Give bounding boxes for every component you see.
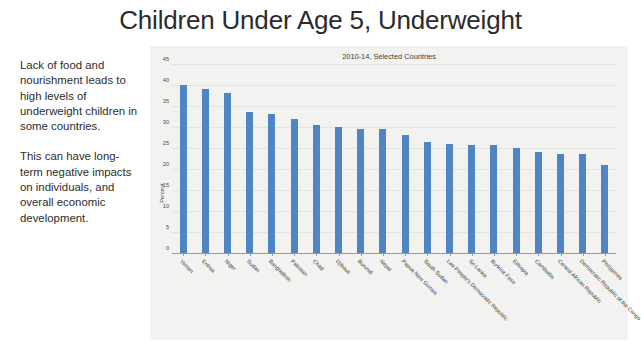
category-label-slot: Philippines: [594, 256, 616, 340]
y-axis-tick-label: 25: [163, 140, 169, 146]
bar-slot: [305, 64, 327, 253]
plot-area: 051015202530354045: [172, 64, 616, 254]
bar: [224, 93, 231, 253]
bar-slot: [527, 64, 549, 253]
bar: [424, 142, 431, 253]
narrative-text-block: Lack of food and nourishment leads to hi…: [20, 58, 142, 226]
y-axis-tick-label: 30: [163, 119, 169, 125]
bar-slot: [594, 64, 616, 253]
bar: [490, 145, 497, 253]
category-label: Nepal: [379, 258, 393, 272]
bar-slot: [194, 64, 216, 253]
y-axis-tick-label: 35: [163, 98, 169, 104]
bar-slot: [438, 64, 460, 253]
category-label-slot: Sri Lanka: [461, 256, 483, 340]
category-label-slot: Democratic Republic of the Congo: [572, 256, 594, 340]
bar: [468, 145, 475, 253]
bar: [446, 144, 453, 253]
category-label-slot: Cambodia: [527, 256, 549, 340]
category-label-slot: Burundi: [350, 256, 372, 340]
category-label-slot: South Sudan: [416, 256, 438, 340]
category-label-slot: Ethiopia: [505, 256, 527, 340]
category-label-slot: Djibouti: [327, 256, 349, 340]
bar: [313, 125, 320, 253]
y-axis-tick-label: 20: [163, 161, 169, 167]
bar-slot: [372, 64, 394, 253]
bar-slot: [261, 64, 283, 253]
y-axis-tick-label: 40: [163, 77, 169, 83]
bar-slot: [239, 64, 261, 253]
bar: [579, 154, 586, 253]
bar-slot: [483, 64, 505, 253]
narrative-paragraph-2: This can have long-term negative impacts…: [20, 149, 142, 225]
category-label-slot: Papua New Guinea: [394, 256, 416, 340]
category-label: Yemen: [179, 258, 195, 274]
bar-series: [172, 64, 616, 253]
category-label: Eritrea: [201, 258, 217, 274]
category-label-slot: Yemen: [172, 256, 194, 340]
x-axis-category-labels: YemenEritreaNigerSudanBangladeshPakistan…: [172, 256, 616, 340]
page-title: Children Under Age 5, Underweight: [0, 4, 641, 36]
bar: [180, 85, 187, 253]
category-label-slot: Central African Republic: [549, 256, 571, 340]
bar: [513, 148, 520, 253]
bar-slot: [572, 64, 594, 253]
category-label-slot: Nepal: [372, 256, 394, 340]
narrative-paragraph-1: Lack of food and nourishment leads to hi…: [20, 58, 142, 134]
category-label-slot: Burkina Faso: [483, 256, 505, 340]
bar-slot: [505, 64, 527, 253]
bar: [246, 112, 253, 253]
bar-slot: [416, 64, 438, 253]
bar-slot: [394, 64, 416, 253]
bar-slot: [549, 64, 571, 253]
bar: [601, 165, 608, 253]
bar: [357, 129, 364, 253]
bar-slot: [327, 64, 349, 253]
chart-subtitle: 2010-14, Selected Countries: [150, 52, 628, 61]
category-label-slot: Sudan: [239, 256, 261, 340]
category-label: Chad: [312, 258, 326, 272]
bar-slot: [461, 64, 483, 253]
bar: [535, 152, 542, 253]
y-axis-tick-label: 0: [166, 245, 169, 251]
category-label-slot: Eritrea: [194, 256, 216, 340]
bar: [202, 89, 209, 253]
y-axis-tick-label: 5: [166, 224, 169, 230]
bar: [291, 119, 298, 253]
y-axis-tick-label: 15: [163, 182, 169, 188]
bar-slot: [172, 64, 194, 253]
bar-slot: [350, 64, 372, 253]
category-label: Sudan: [245, 258, 260, 273]
category-label-slot: Niger: [216, 256, 238, 340]
bar: [335, 127, 342, 253]
y-axis-tick-label: 10: [163, 203, 169, 209]
bar: [557, 154, 564, 253]
category-label: Philippines: [601, 258, 624, 281]
bar-slot: [283, 64, 305, 253]
bar: [402, 135, 409, 253]
category-label-slot: Pakistan: [283, 256, 305, 340]
category-label-slot: Chad: [305, 256, 327, 340]
chart-panel: 2010-14, Selected Countries Percent 0510…: [150, 46, 628, 340]
category-label-slot: Bangladesh: [261, 256, 283, 340]
y-axis-tick-label: 45: [163, 56, 169, 62]
x-axis-line: [172, 253, 616, 254]
bar-slot: [216, 64, 238, 253]
bar: [379, 129, 386, 253]
category-label: Niger: [223, 258, 237, 272]
bar: [268, 114, 275, 253]
category-label-slot: Lao People's Democratic Republic: [438, 256, 460, 340]
